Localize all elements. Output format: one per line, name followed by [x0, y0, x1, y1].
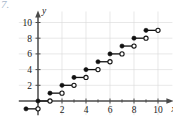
open-endpoint-dot	[96, 68, 100, 72]
closed-endpoint-dot	[48, 91, 52, 95]
open-endpoint-dot	[108, 60, 112, 64]
x-axis-label: x	[170, 104, 173, 114]
closed-endpoint-dot	[108, 52, 112, 56]
closed-endpoint-dot	[144, 28, 148, 32]
open-endpoint-dot	[72, 83, 76, 87]
open-endpoint-dot	[144, 36, 148, 40]
open-endpoint-dot	[132, 44, 136, 48]
closed-endpoint-dot	[60, 83, 64, 87]
x-tick-label: 10	[153, 105, 163, 115]
x-tick-label: 4	[84, 105, 89, 115]
x-axis-arrow	[166, 98, 173, 104]
y-tick-label: 2	[27, 81, 32, 91]
open-endpoint-dot	[36, 107, 40, 111]
y-tick-label: 10	[23, 18, 33, 28]
x-tick-label: 2	[60, 105, 65, 115]
y-axis-label: y	[41, 6, 47, 16]
gridlines	[19, 12, 173, 116]
closed-endpoint-dot	[24, 107, 28, 111]
axis-name-labels: xy	[41, 6, 173, 114]
closed-endpoint-dot	[120, 44, 124, 48]
y-tick-label: 6	[27, 49, 32, 59]
closed-endpoint-dot	[72, 75, 76, 79]
closed-endpoint-dot	[132, 36, 136, 40]
plot-area: 246810246810 xy	[0, 0, 173, 117]
open-endpoint-dot	[84, 75, 88, 79]
x-tick-label: 6	[108, 105, 113, 115]
y-axis-arrow	[35, 11, 41, 18]
y-tick-label: 4	[27, 65, 32, 75]
closed-endpoint-dot	[84, 68, 88, 72]
open-endpoint-dot	[120, 52, 124, 56]
closed-endpoint-dot	[36, 99, 40, 103]
x-tick-label: 8	[132, 105, 137, 115]
closed-endpoint-dot	[96, 60, 100, 64]
open-endpoint-dot	[48, 99, 52, 103]
step-function-figure: 7. 246810246810 xy	[0, 0, 173, 117]
y-tick-label: 8	[27, 34, 32, 44]
open-endpoint-dot	[60, 91, 64, 95]
open-endpoint-dot	[156, 28, 160, 32]
